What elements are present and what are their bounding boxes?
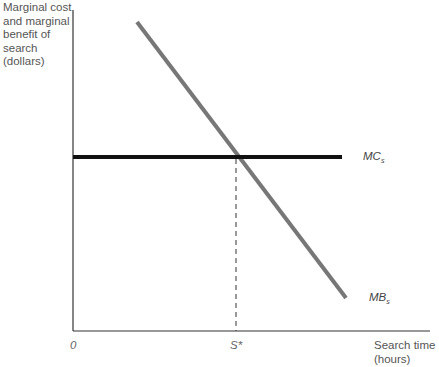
mb-curve-label: MBs <box>369 291 390 305</box>
mb-label-sub: s <box>386 298 390 305</box>
origin-label: 0 <box>70 339 76 351</box>
mc-label-main: MC <box>363 150 381 162</box>
x-axis-label: Search time (hours) <box>374 339 435 366</box>
s-star-label: S* <box>230 339 242 351</box>
mc-curve-label: MCs <box>363 150 384 164</box>
x-axis-label-line: Search time <box>374 339 435 353</box>
x-axis-label-line: (hours) <box>374 353 435 367</box>
mc-label-sub: s <box>381 157 385 164</box>
mb-curve <box>137 22 346 298</box>
mb-label-main: MB <box>369 291 386 303</box>
chart-canvas <box>0 0 439 367</box>
